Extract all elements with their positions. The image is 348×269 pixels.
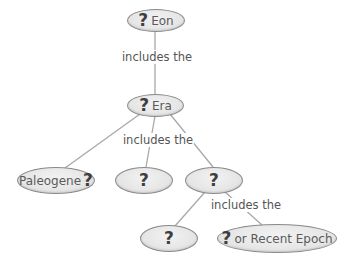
- link-label-eon-era: includes the: [121, 50, 193, 64]
- node-paleogene: Paleogene ?: [17, 167, 95, 194]
- question-mark-icon: ?: [138, 12, 148, 29]
- question-mark-icon: ?: [222, 230, 232, 247]
- node-label: Eon: [151, 14, 174, 28]
- node-label: or Recent Epoch: [234, 232, 332, 246]
- question-mark-icon: ?: [139, 97, 149, 114]
- node-era: ? Era: [127, 94, 184, 117]
- question-mark-icon: ?: [83, 172, 93, 189]
- link-label-era-periods: includes the: [122, 133, 194, 147]
- node-label: Era: [152, 99, 172, 113]
- question-mark-icon: ?: [164, 230, 174, 247]
- link-period-epoch-left: [175, 192, 205, 226]
- node-epoch-recent: ? or Recent Epoch: [217, 224, 337, 253]
- node-eon: ? Eon: [127, 9, 185, 32]
- node-period-right: ?: [185, 167, 243, 194]
- link-label-period-epochs: includes the: [210, 198, 282, 212]
- node-epoch-left: ?: [140, 225, 198, 252]
- node-period-middle: ?: [115, 167, 173, 194]
- question-mark-icon: ?: [209, 172, 219, 189]
- node-label: Paleogene: [19, 174, 81, 188]
- question-mark-icon: ?: [139, 172, 149, 189]
